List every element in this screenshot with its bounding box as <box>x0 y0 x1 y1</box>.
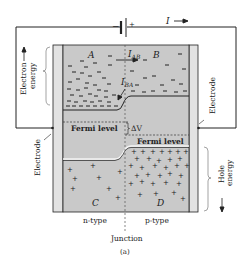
fermi-level-right-label: Fermi level <box>137 137 184 146</box>
svg-text:energy: energy <box>28 62 37 89</box>
region-c-label: C <box>92 198 99 208</box>
svg-text:+: + <box>184 162 190 170</box>
electrode-left-label: Electrode <box>33 139 42 176</box>
svg-text:+: + <box>174 162 180 170</box>
electrode-left-pointer <box>44 134 51 140</box>
p-type-label: p-type <box>145 216 169 225</box>
svg-text:Electron: Electron <box>19 62 28 95</box>
svg-text:+: + <box>139 178 145 186</box>
electrode-right-pointer <box>199 120 204 124</box>
svg-text:+: + <box>72 175 78 183</box>
svg-text:+: + <box>128 180 134 188</box>
svg-text:+: + <box>153 190 159 198</box>
current-arrow-icon <box>174 19 188 23</box>
svg-text:+: + <box>70 185 76 193</box>
svg-text:+: + <box>167 156 173 164</box>
figure-caption: (a) <box>120 248 130 256</box>
svg-text:+: + <box>96 174 102 182</box>
svg-text:+: + <box>159 148 165 156</box>
region-d-label: D <box>156 198 164 208</box>
svg-text:+: + <box>178 172 184 180</box>
electrode-left <box>53 45 63 212</box>
svg-text:+: + <box>150 180 156 188</box>
electron-energy-label: Electron energy <box>19 62 37 95</box>
svg-text:+: + <box>117 168 123 176</box>
svg-text:+: + <box>183 148 189 156</box>
electron-energy-brace <box>43 47 50 105</box>
region-a-label: A <box>87 50 95 60</box>
svg-text:+: + <box>137 191 143 199</box>
svg-text:+: + <box>134 155 140 163</box>
svg-text:+: + <box>128 162 134 170</box>
svg-text:+: + <box>152 162 158 170</box>
region-b-label: B <box>152 50 160 60</box>
pn-junction-diagram: − + I Fermi level Fermi level ΔV <box>0 0 249 271</box>
hole-energy-arrow-icon <box>220 198 224 212</box>
svg-text:+: + <box>115 194 121 202</box>
electrode-right-label: Electrode <box>208 77 217 114</box>
svg-text:+: + <box>163 179 169 187</box>
svg-text:+: + <box>67 166 73 174</box>
svg-text:+: + <box>171 189 177 197</box>
svg-text:+: + <box>145 171 151 179</box>
contact-right <box>197 127 200 130</box>
electron-energy-arrow-icon <box>22 47 26 61</box>
battery-plus-label: + <box>129 21 135 29</box>
svg-text:+: + <box>180 195 186 203</box>
delta-v-label: ΔV <box>131 124 142 133</box>
battery-minus-label: − <box>112 21 120 31</box>
n-type-label: n-type <box>83 216 107 225</box>
svg-text:+: + <box>167 170 173 178</box>
svg-text:+: + <box>106 185 112 193</box>
svg-text:+: + <box>167 148 173 156</box>
electrode-right <box>189 45 198 212</box>
junction-label: Junction <box>110 234 143 243</box>
contact-left <box>51 127 54 130</box>
fermi-level-left-label: Fermi level <box>71 124 118 133</box>
hole-energy-brace <box>204 147 211 211</box>
svg-text:energy: energy <box>225 159 234 186</box>
hole-energy-label: Hole energy <box>217 159 234 186</box>
current-label: I <box>165 16 170 26</box>
battery-icon <box>121 18 126 37</box>
svg-text:+: + <box>176 180 182 188</box>
svg-text:+: + <box>90 162 96 170</box>
